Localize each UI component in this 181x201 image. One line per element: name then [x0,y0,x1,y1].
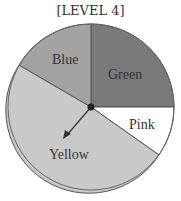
spinner-pivot [88,104,95,111]
label-blue: Blue [52,52,78,67]
spinner: Blue Green Pink Yellow [0,0,181,201]
label-green: Green [108,67,142,82]
slice-green [91,24,174,107]
label-yellow: Yellow [49,147,90,162]
label-pink: Pink [129,117,155,132]
